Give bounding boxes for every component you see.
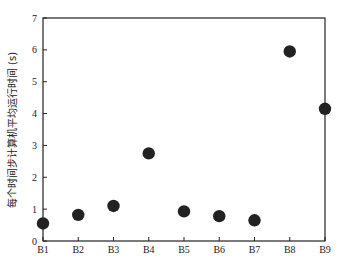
data-point-b3 (107, 200, 119, 212)
x-tick-label: B5 (178, 244, 190, 255)
data-point-b8 (284, 45, 296, 57)
x-tick-label: B6 (213, 244, 225, 255)
y-axis-label: 每个时间步计算机平均运行时间 (s) (6, 52, 18, 208)
x-tick-label: B4 (143, 244, 155, 255)
data-point-b6 (213, 210, 225, 222)
data-point-b2 (72, 209, 84, 221)
y-tick-label: 3 (32, 140, 37, 151)
data-points (37, 45, 331, 229)
x-tick-label: B3 (108, 244, 120, 255)
y-tick-label: 4 (32, 108, 37, 119)
x-tick-label: B8 (284, 244, 296, 255)
y-tick-label: 5 (32, 76, 37, 87)
x-tick-label: B2 (72, 244, 84, 255)
y-tick-label: 7 (32, 13, 37, 24)
data-point-b7 (248, 214, 260, 226)
scatter-chart: 01234567B1B2B3B4B5B6B7B8B9 每个时间步计算机平均运行时… (0, 0, 348, 270)
data-point-b5 (178, 205, 190, 217)
data-point-b4 (143, 147, 155, 159)
data-point-b1 (37, 217, 49, 229)
y-tick-label: 2 (32, 172, 37, 183)
y-tick-label: 6 (32, 44, 37, 55)
x-tick-label: B1 (37, 244, 49, 255)
x-tick-label: B9 (319, 244, 331, 255)
x-tick-label: B7 (249, 244, 261, 255)
data-point-b9 (319, 103, 331, 115)
y-tick-label: 1 (32, 204, 37, 215)
